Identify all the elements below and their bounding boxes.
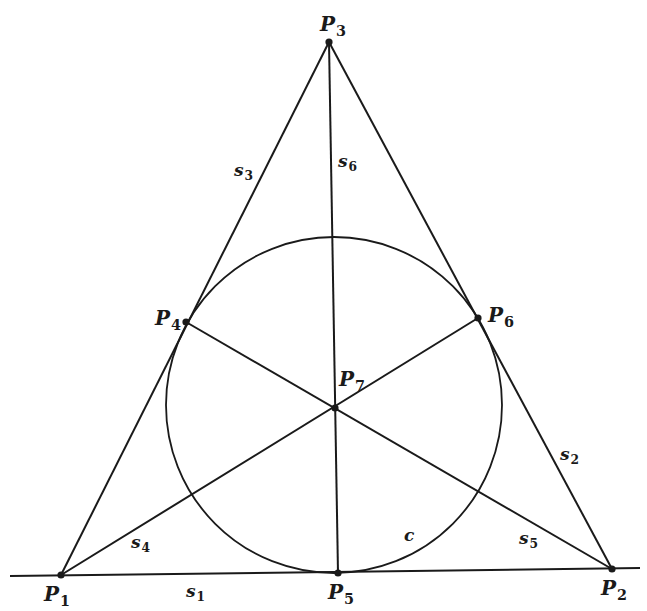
line-label-s6: s6 <box>338 153 357 174</box>
circle-label-c: c <box>404 527 414 544</box>
point-label-P7: P7 <box>339 369 365 393</box>
line-s2 <box>329 42 612 569</box>
line-s4 <box>61 318 478 575</box>
fano-plane-diagram <box>0 0 647 611</box>
point-P6 <box>474 314 481 321</box>
line-s6 <box>329 42 338 573</box>
point-label-P5: P5 <box>328 582 354 606</box>
line-label-s4: s4 <box>131 534 150 555</box>
point-label-P3: P3 <box>320 14 346 38</box>
line-s3 <box>61 42 329 575</box>
line-s5 <box>186 322 612 569</box>
point-P3 <box>325 38 332 45</box>
point-P5 <box>334 569 341 576</box>
point-label-P6: P6 <box>488 305 514 329</box>
line-label-s5: s5 <box>519 530 538 551</box>
point-label-P2: P2 <box>601 578 627 602</box>
point-P7 <box>331 404 338 411</box>
point-P2 <box>608 565 615 572</box>
line-label-s1: s1 <box>186 583 205 604</box>
point-label-P4: P4 <box>155 308 181 332</box>
point-P4 <box>182 318 189 325</box>
line-label-s2: s2 <box>560 446 579 467</box>
line-label-s3: s3 <box>234 162 253 183</box>
point-P1 <box>57 571 64 578</box>
point-label-P1: P1 <box>44 584 70 608</box>
